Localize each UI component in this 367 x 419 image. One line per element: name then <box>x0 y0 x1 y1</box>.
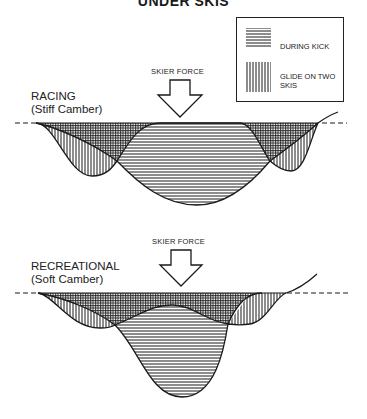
recreational-force-arrow-icon <box>160 250 202 286</box>
diagram-canvas <box>0 0 367 419</box>
racing-diagram <box>15 80 347 205</box>
recreational-diagram <box>15 250 349 397</box>
racing-force-arrow-icon <box>158 80 202 117</box>
legend-swatch-horizontal <box>246 28 271 48</box>
legend-swatch-vertical <box>246 62 271 92</box>
